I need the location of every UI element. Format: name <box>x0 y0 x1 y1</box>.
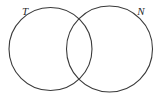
set-circle-left <box>9 8 92 91</box>
venn-diagram-figure: T N <box>0 0 165 95</box>
set-circle-right <box>67 6 153 92</box>
set-label-right: N <box>136 5 145 17</box>
venn-diagram-canvas: T N <box>0 0 165 95</box>
set-label-left: T <box>22 5 29 17</box>
